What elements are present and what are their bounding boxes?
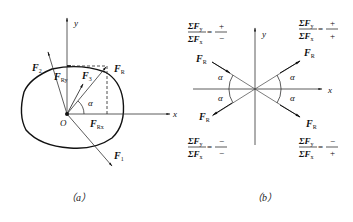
angle-label: α: [88, 98, 93, 108]
caption-a: （a）: [66, 192, 91, 203]
svg-text:=: =: [318, 142, 323, 152]
fr-label-ul: FR: [195, 53, 207, 65]
fr-arrow-lower-right: [280, 105, 300, 117]
svg-text:ΣFx: ΣFx: [187, 34, 203, 45]
angle-label-ul: α: [218, 72, 223, 82]
fr-label-lr: FR: [305, 118, 317, 130]
x-axis-label-b: x: [327, 85, 332, 95]
y-axis-label-b: y: [261, 29, 266, 39]
f1-label: F1: [113, 150, 124, 162]
fry-label: FRy: [53, 71, 67, 83]
formula-upper-right: ΣFy ΣFx = + +: [298, 18, 338, 42]
x-axis-label: x: [172, 109, 177, 119]
svg-text:+: +: [330, 31, 335, 41]
origin-label: O: [60, 118, 67, 128]
svg-text:ΣFx: ΣFx: [298, 149, 314, 160]
formula-upper-left: ΣFy ΣFx = + −: [187, 21, 227, 45]
origin-point: [65, 112, 69, 116]
svg-text:+: +: [330, 18, 335, 28]
figure-b: y x α α α α FR FR FR FR ΣFy ΣFx = +: [187, 18, 338, 203]
y-axis-label: y: [73, 18, 78, 28]
svg-text:ΣFy: ΣFy: [298, 18, 314, 29]
svg-text:ΣFx: ΣFx: [187, 149, 203, 160]
svg-text:−: −: [219, 148, 224, 158]
svg-text:ΣFy: ΣFy: [187, 136, 203, 147]
force-f3-arrow: [67, 84, 83, 114]
svg-text:=: =: [318, 24, 323, 34]
svg-text:−: −: [330, 136, 335, 146]
fr-arrow-lower-left: [213, 103, 232, 115]
svg-text:−: −: [219, 33, 224, 43]
force-diagram: y x α O F2 FRy F3 FR FRx F1 （a） y x: [0, 0, 353, 222]
fr-label-ll: FR: [198, 111, 210, 123]
svg-text:ΣFx: ΣFx: [298, 31, 314, 42]
angle-label-ll: α: [218, 93, 223, 103]
figure-a: y x α O F2 FRy F3 FR FRx F1 （a）: [21, 18, 177, 203]
svg-text:+: +: [219, 21, 224, 31]
f3-label: F3: [81, 70, 92, 82]
svg-text:−: −: [219, 136, 224, 146]
formula-lower-right: ΣFy ΣFx = − +: [298, 136, 338, 160]
svg-text:=: =: [207, 142, 212, 152]
fr-label: FR: [113, 63, 125, 75]
svg-text:=: =: [207, 27, 212, 37]
force-f2-arrow: [48, 52, 67, 114]
svg-text:ΣFy: ΣFy: [187, 21, 203, 32]
angle-arc: [78, 101, 84, 114]
angle-label-ur: α: [290, 72, 295, 82]
frx-label: FRx: [89, 118, 104, 130]
formula-lower-left: ΣFy ΣFx = − −: [187, 136, 227, 160]
svg-text:ΣFy: ΣFy: [298, 136, 314, 147]
caption-b: （b）: [252, 192, 277, 203]
f2-label: F2: [31, 62, 42, 74]
svg-text:+: +: [330, 148, 335, 158]
fr-label-ur: FR: [303, 47, 315, 59]
angle-label-lr: α: [290, 93, 295, 103]
